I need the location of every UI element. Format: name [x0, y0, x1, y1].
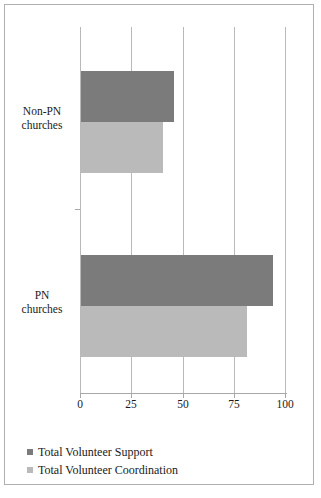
gridline-100 — [285, 27, 286, 393]
legend-swatch-icon — [27, 467, 33, 473]
category-label-line-2: churches — [7, 303, 77, 317]
bar-non-pn-total-volunteer-support[interactable] — [81, 71, 174, 122]
category-axis-line — [80, 27, 81, 394]
x-tick-label-25: 25 — [111, 398, 151, 410]
legend-label: Total Volunteer Coordination — [38, 463, 178, 478]
chart-figure: Non-PN churches PN churches 0 25 50 75 1… — [4, 4, 314, 485]
x-tick-label-75: 75 — [214, 398, 254, 410]
x-tick-label-100: 100 — [265, 398, 305, 410]
category-label-line-2: churches — [7, 119, 77, 133]
bar-pn-total-volunteer-support[interactable] — [81, 255, 273, 306]
legend-item-total-volunteer-support[interactable]: Total Volunteer Support — [27, 443, 178, 461]
bar-pn-total-volunteer-coordination[interactable] — [81, 306, 247, 357]
category-label-line-1: PN — [7, 289, 77, 303]
category-label-pn-churches: PN churches — [7, 289, 77, 316]
category-divider-tick — [75, 209, 80, 210]
x-tick-label-0: 0 — [60, 398, 100, 410]
bar-non-pn-total-volunteer-coordination[interactable] — [81, 122, 163, 173]
plot-area — [80, 27, 286, 393]
x-tick-label-50: 50 — [163, 398, 203, 410]
category-label-non-pn-churches: Non-PN churches — [7, 105, 77, 132]
legend-item-total-volunteer-coordination[interactable]: Total Volunteer Coordination — [27, 461, 178, 479]
legend-label: Total Volunteer Support — [38, 445, 153, 460]
chart-legend: Total Volunteer Support Total Volunteer … — [27, 443, 178, 479]
legend-swatch-icon — [27, 449, 33, 455]
category-label-line-1: Non-PN — [7, 105, 77, 119]
